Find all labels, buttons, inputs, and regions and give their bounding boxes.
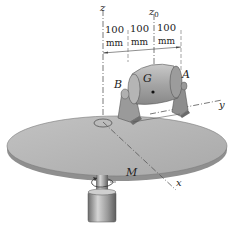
point-G-label: G xyxy=(143,72,152,85)
z-axis-label: z xyxy=(99,2,106,13)
rotating-disk xyxy=(7,116,227,181)
dim-3-value: 100 xyxy=(157,22,176,33)
dim-1-value: 100 xyxy=(105,24,124,35)
moment-label: M xyxy=(125,166,138,179)
diagram-figure: z z0 100 mm 100 mm 100 mm B G A y x M xyxy=(0,0,230,228)
motor-cylinder xyxy=(128,64,182,104)
z0-axis-label: z0 xyxy=(148,6,159,19)
y-axis-label: y xyxy=(218,99,225,110)
x-axis-label: x xyxy=(176,177,182,188)
dim-2-value: 100 xyxy=(130,23,149,34)
dim-1-unit: mm xyxy=(106,38,124,48)
point-A-label: A xyxy=(181,68,190,81)
dim-3-unit: mm xyxy=(158,36,176,46)
center-of-mass-dot xyxy=(151,90,154,93)
point-B-label: B xyxy=(113,78,122,91)
dim-2-unit: mm xyxy=(131,37,149,47)
